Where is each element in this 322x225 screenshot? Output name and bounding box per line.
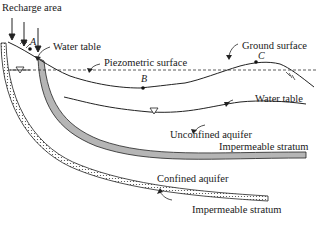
confined-aquifer-label: Confined aquifer <box>157 173 229 184</box>
water-table-symbol-mid <box>150 108 158 114</box>
ground-surface-label: Ground surface <box>242 40 307 51</box>
piezometric-surface-label: Piezometric surface <box>104 57 187 68</box>
impermeable-stratum-lower-label: Impermeable stratum <box>192 204 282 215</box>
recharge-arrows <box>9 18 41 52</box>
point-a-marker <box>28 47 32 51</box>
unconfined-aquifer-label: Unconfined aquifer <box>170 129 252 140</box>
aquifer-diagram: Recharge area Water table Piezometric su… <box>0 0 322 225</box>
ground-hatch-right <box>286 72 295 80</box>
recharge-area-label: Recharge area <box>2 2 62 13</box>
point-b-label: B <box>141 73 147 84</box>
impermeable-stratum-upper-label: Impermeable stratum <box>219 141 309 152</box>
point-c-label: C <box>258 50 265 61</box>
water-table-top-label: Water table <box>53 41 101 52</box>
point-a-label: A <box>29 36 37 47</box>
point-b-marker <box>141 86 145 90</box>
water-table-mid-label: Water table <box>255 93 303 104</box>
